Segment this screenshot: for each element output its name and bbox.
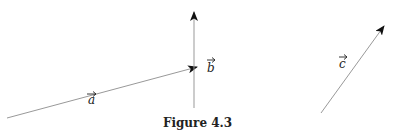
vector-diagram: a b c	[0, 0, 395, 134]
figure-caption: Figure 4.3	[0, 116, 395, 130]
vector-b-label: b	[207, 61, 215, 75]
vector-b: b	[194, 12, 215, 108]
vector-c: c	[321, 26, 384, 113]
vector-a: a	[7, 67, 197, 118]
